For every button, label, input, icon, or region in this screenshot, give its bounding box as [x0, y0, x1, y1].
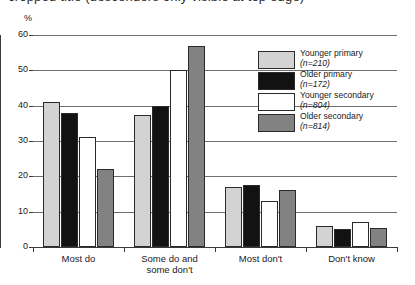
gridline-60: [33, 35, 397, 36]
legend-swatch-older-primary: [258, 72, 295, 90]
bar-younger-secondary-most-don-t: [261, 201, 278, 247]
legend-sample-size: (n=210): [300, 59, 363, 69]
y-tick-label-0: 0: [8, 241, 28, 251]
bar-older-secondary-some-do-and-some-don-t: [188, 46, 205, 247]
legend-item-younger-primary[interactable]: Younger primary(n=210): [258, 50, 408, 71]
y-tick-mark-30: [29, 141, 33, 142]
y-tick-mark-60: [29, 35, 33, 36]
bar-older-primary-most-do: [61, 113, 78, 247]
bar-younger-primary-most-don-t: [225, 187, 242, 247]
legend-label-older-primary: Older primary(n=172): [300, 70, 352, 89]
bar-older-primary-most-don-t: [243, 185, 260, 247]
category-label-line1: Most do: [33, 253, 124, 264]
page-title-text: cropped title (descenders only visible a…: [8, 0, 304, 4]
x-tick-4: [397, 247, 398, 252]
category-label-0: Most do: [33, 253, 124, 264]
legend: Younger primary(n=210)Older primary(n=17…: [258, 50, 408, 134]
category-label-line2: some don't: [124, 264, 215, 275]
legend-label-younger-primary: Younger primary(n=210): [300, 49, 363, 68]
legend-sample-size: (n=814): [300, 122, 363, 132]
y-tick-mark-40: [29, 106, 33, 107]
legend-swatch-younger-primary: [258, 51, 295, 69]
y-tick-label-60: 60: [8, 29, 28, 39]
y-tick-mark-20: [29, 176, 33, 177]
bar-older-secondary-most-don-t: [279, 190, 296, 247]
bar-older-primary-don-t-know: [334, 229, 351, 247]
category-label-line1: Some do and: [124, 253, 215, 264]
y-tick-label-50: 50: [8, 64, 28, 74]
bar-chart: cropped title (descenders only visible a…: [0, 0, 415, 285]
legend-sample-size: (n=172): [300, 80, 352, 90]
category-label-line1: Most don't: [215, 253, 306, 264]
x-tick-0: [33, 247, 34, 252]
category-label-3: Don't know: [306, 253, 397, 264]
bar-older-secondary-most-do: [97, 169, 114, 247]
category-label-2: Most don't: [215, 253, 306, 264]
y-tick-label-20: 20: [8, 170, 28, 180]
y-tick-mark-50: [29, 70, 33, 71]
page-title-cropped: cropped title (descenders only visible a…: [0, 0, 415, 10]
y-axis-unit-label: %: [24, 13, 32, 23]
bar-younger-secondary-some-do-and-some-don-t: [170, 70, 187, 247]
x-tick-2: [215, 247, 216, 252]
legend-item-older-primary[interactable]: Older primary(n=172): [258, 71, 408, 92]
legend-item-younger-secondary[interactable]: Younger secondary(n=804): [258, 92, 408, 113]
y-tick-label-10: 10: [8, 206, 28, 216]
category-label-1: Some do andsome don't: [124, 253, 215, 275]
legend-sample-size: (n=804): [300, 101, 374, 111]
bar-younger-primary-most-do: [43, 102, 60, 247]
x-tick-1: [124, 247, 125, 252]
y-tick-label-30: 30: [8, 135, 28, 145]
y-tick-mark-10: [29, 212, 33, 213]
legend-swatch-younger-secondary: [258, 93, 295, 111]
category-label-line1: Don't know: [306, 253, 397, 264]
bar-older-secondary-don-t-know: [370, 228, 387, 247]
bar-younger-secondary-don-t-know: [352, 222, 369, 247]
bar-younger-primary-don-t-know: [316, 226, 333, 247]
bar-younger-secondary-most-do: [79, 137, 96, 247]
legend-swatch-older-secondary: [258, 114, 295, 132]
bar-younger-primary-some-do-and-some-don-t: [134, 115, 151, 248]
y-axis-line: [0, 35, 1, 248]
legend-item-older-secondary[interactable]: Older secondary(n=814): [258, 113, 408, 134]
y-tick-label-40: 40: [8, 100, 28, 110]
x-tick-3: [306, 247, 307, 252]
legend-label-younger-secondary: Younger secondary(n=804): [300, 91, 374, 110]
bar-older-primary-some-do-and-some-don-t: [152, 106, 169, 247]
legend-label-older-secondary: Older secondary(n=814): [300, 112, 363, 131]
